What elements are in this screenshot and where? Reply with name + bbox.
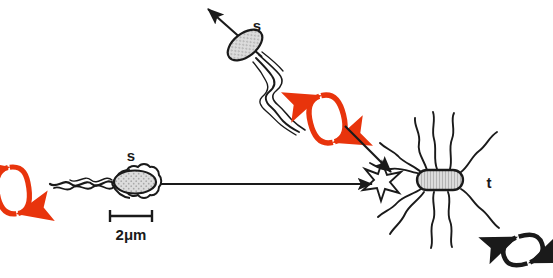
cell-label-t: t: [487, 174, 492, 191]
scale-bar: 2μm: [110, 210, 152, 243]
cell-label-s-left: s: [127, 147, 135, 164]
bacterial-motility-figure: s s: [0, 0, 553, 278]
diagram-canvas: s s: [0, 0, 553, 278]
cell-body-left: [114, 171, 156, 194]
cell-body-tumbling: [417, 170, 463, 190]
cell-label-s-upper: s: [253, 17, 261, 34]
figure-background: [0, 0, 553, 278]
scale-bar-label: 2μm: [116, 226, 147, 243]
